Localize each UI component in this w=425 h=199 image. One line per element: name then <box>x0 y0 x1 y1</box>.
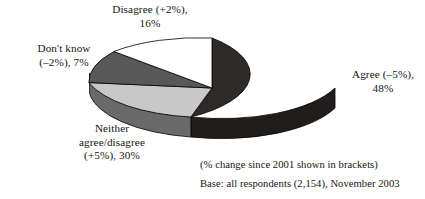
pie-label-dont-know-line1: Don't know <box>8 42 120 56</box>
pie-label-neither-line2: agree/disagree <box>48 136 176 150</box>
pie-label-dont-know: Don't know (–2%), 7% <box>8 42 120 69</box>
footnote-change-note: (% change since 2001 shown in brackets) <box>200 157 378 173</box>
pie-label-disagree: Disagree (+2%), 16% <box>86 3 214 30</box>
pie-label-neither-line1: Neither <box>48 122 176 136</box>
pie-label-neither: Neither agree/disagree (+5%), 30% <box>48 122 176 163</box>
pie-label-agree-line2: 48% <box>341 82 425 96</box>
pie-label-neither-line3: (+5%), 30% <box>48 149 176 163</box>
footnote-base-note: Base: all respondents (2,154), November … <box>200 176 400 192</box>
pie-label-disagree-line1: Disagree (+2%), <box>86 3 214 17</box>
pie-label-disagree-line2: 16% <box>86 17 214 31</box>
pie-chart-figure: Disagree (+2%), 16% Don't know (–2%), 7%… <box>0 0 425 199</box>
pie-label-dont-know-line2: (–2%), 7% <box>8 56 120 70</box>
pie-label-agree-line1: Agree (–5%), <box>341 68 425 82</box>
pie-label-agree: Agree (–5%), 48% <box>341 68 425 95</box>
